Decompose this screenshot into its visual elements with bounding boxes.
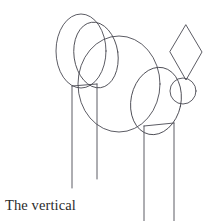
small-circle-shape xyxy=(170,78,196,104)
figure-caption: The vertical lines are parallel. xyxy=(5,177,155,221)
left-connector-line xyxy=(72,84,97,86)
right-connector-line xyxy=(144,123,174,126)
right-tilted-ellipse-shape xyxy=(124,63,187,140)
center-large-circle-shape xyxy=(78,36,160,132)
caption-line-1: The vertical xyxy=(5,196,155,215)
illusion-figure-page: The vertical lines are parallel. xyxy=(0,0,212,221)
diamond-shape xyxy=(170,25,202,80)
